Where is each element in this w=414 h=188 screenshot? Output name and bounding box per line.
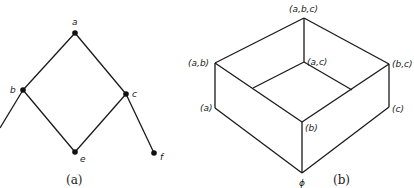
- label-node-e: e: [80, 154, 86, 164]
- label-node-c: c: [132, 89, 137, 99]
- panel-a-hasse-diagram: a b c e f (a): [0, 17, 165, 187]
- label-ac: (a,c): [307, 57, 327, 67]
- label-b: (b): [305, 123, 318, 133]
- label-a: (a): [200, 103, 213, 113]
- label-node-f: f: [160, 152, 165, 162]
- label-c: (c): [392, 104, 404, 114]
- node-b: [20, 87, 26, 93]
- edge-b-offscreen: [0, 90, 23, 128]
- label-empty-set: ϕ: [299, 178, 305, 188]
- edge-c-f: [126, 94, 154, 153]
- edge-c-e: [75, 94, 126, 152]
- node-f: [151, 150, 157, 156]
- diagram-canvas: a b c e f (a) (a,b,c) (a,b) (a,c) (b,c) …: [0, 0, 414, 188]
- edge-abc-ab: [215, 18, 304, 63]
- node-c: [123, 91, 129, 97]
- caption-b: (b): [333, 173, 350, 187]
- panel-b-subset-lattice: (a,b,c) (a,b) (a,c) (b,c) (a) (b) (c) ϕ …: [188, 4, 413, 188]
- label-node-b: b: [10, 85, 16, 95]
- label-bc: (b,c): [392, 59, 413, 69]
- label-node-a: a: [72, 17, 78, 27]
- label-abc: (a,b,c): [289, 4, 318, 14]
- node-e: [72, 149, 78, 155]
- edge-a-c: [75, 33, 126, 94]
- edge-b-e: [23, 90, 75, 152]
- edge-ac-inner-left: [253, 62, 304, 88]
- edge-ab-b: [215, 63, 302, 122]
- node-a: [72, 30, 78, 36]
- edge-c-empty: [302, 107, 389, 173]
- edge-a-empty: [215, 108, 302, 173]
- caption-a: (a): [66, 173, 83, 187]
- edge-a-b: [23, 33, 75, 90]
- label-ab: (a,b): [188, 58, 209, 68]
- edge-bc-b: [302, 64, 389, 122]
